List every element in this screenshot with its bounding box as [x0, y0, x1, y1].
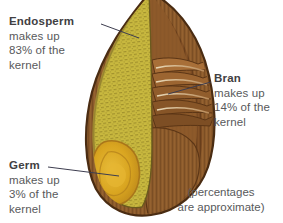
callout-germ-term: Germ	[9, 158, 89, 173]
callout-bran-term: Bran	[214, 71, 283, 86]
callout-germ-description: makes up 3% of the kernel	[9, 173, 89, 217]
callout-endosperm-description: makes up 83% of the kernel	[9, 29, 105, 73]
callout-germ: Germ makes up 3% of the kernel	[9, 158, 89, 216]
callout-endosperm-term: Endosperm	[9, 14, 105, 29]
callout-bran: Bran makes up 14% of the kernel	[214, 71, 283, 129]
callout-bran-description: makes up 14% of the kernel	[214, 86, 283, 130]
percentages-approximate-note: (percentages are approximate)	[161, 185, 281, 214]
wheat-kernel-diagram: Endosperm makes up 83% of the kernel Bra…	[0, 0, 283, 223]
callout-endosperm: Endosperm makes up 83% of the kernel	[9, 14, 105, 72]
